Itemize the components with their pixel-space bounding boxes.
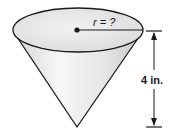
arrow-up-icon — [151, 32, 157, 40]
height-label: 4 in. — [141, 74, 163, 86]
arrow-down-icon — [151, 118, 157, 126]
radius-label: r = ? — [93, 16, 116, 28]
cone-diagram: r = ? 4 in. — [0, 0, 177, 139]
